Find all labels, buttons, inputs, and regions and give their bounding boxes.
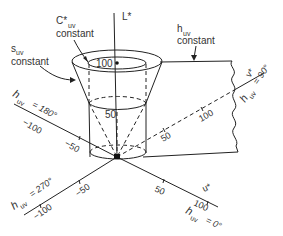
cone-right <box>146 62 162 103</box>
cylinder-left <box>89 103 90 157</box>
neg-v-50-label: −50 <box>73 182 91 199</box>
hue-arrowhead <box>191 55 197 61</box>
l-50-label: 50 <box>105 109 117 120</box>
l-100-label: 100 <box>96 58 113 69</box>
hue-constant-label: h uv constant <box>177 23 215 46</box>
h90-label: h uv = 90° <box>237 61 274 105</box>
bottom-ellipse-back <box>90 145 146 152</box>
svg-text:uv: uv <box>189 214 199 224</box>
mid-ellipse-back <box>89 96 146 103</box>
svg-text:= 270°: = 270° <box>27 175 55 199</box>
svg-text:= 90°: = 90° <box>251 63 272 87</box>
u-50-label: 50 <box>153 184 166 197</box>
u-star-axis <box>117 157 218 207</box>
neg-u-tick-50 <box>79 136 80 140</box>
neg-u-100-label: −100 <box>21 117 44 136</box>
l-star-label: L* <box>122 11 132 22</box>
svg-text:= 180°: = 180° <box>30 99 58 120</box>
svg-text:uv: uv <box>16 49 24 56</box>
mid-ellipse-front <box>89 103 146 110</box>
diagram-svg: L* u* v* 100 50 50 100 50 100 −50 −100 −… <box>0 0 283 236</box>
neg-v-100-label: −100 <box>31 202 53 222</box>
cieluv-diagram: L* u* v* 100 50 50 100 50 100 −50 −100 −… <box>0 0 283 236</box>
saturation-constant-label: s uv constant <box>11 43 49 67</box>
chroma-constant-label: C* uv constant <box>56 15 94 39</box>
svg-text:uv: uv <box>19 200 29 210</box>
saturation-arrowhead <box>70 77 76 83</box>
svg-text:h: h <box>177 23 183 34</box>
svg-text:C*: C* <box>56 15 67 26</box>
u-star-label: u* <box>201 181 213 194</box>
saturation-arrow <box>40 66 74 80</box>
svg-text:constant: constant <box>177 35 215 46</box>
v-100-label: 100 <box>197 108 215 124</box>
neg-u-50-label: −50 <box>63 138 81 154</box>
l-100-point <box>115 61 119 65</box>
cone-left <box>72 62 89 103</box>
origin-point <box>114 154 120 159</box>
svg-text:constant: constant <box>56 28 94 39</box>
svg-text:= 0°: = 0° <box>204 215 223 231</box>
u-100-label: 100 <box>192 198 210 213</box>
svg-text:constant: constant <box>11 56 49 67</box>
